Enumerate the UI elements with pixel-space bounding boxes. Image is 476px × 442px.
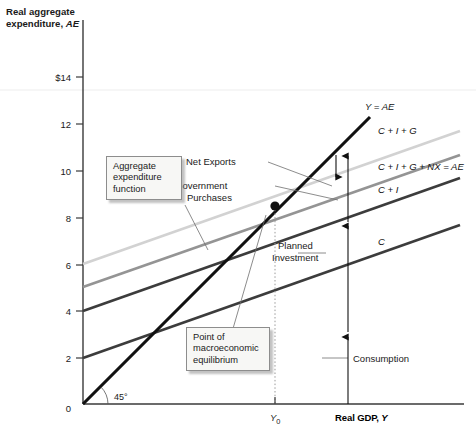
callout-aggregate-expenditure-function: Aggregate expenditure function [106,156,182,200]
curve-label-c-i-g: C + I + G [378,125,417,136]
y-tick-label-4: 4 [66,306,71,317]
annotation-consumption: Consumption [353,353,409,364]
y-tick-label-12: 12 [60,119,71,130]
y-tick-label-2: 2 [66,353,71,364]
annotation-government-purchases-1: Government [175,180,228,191]
callout-point-of-macroeconomic-equilibrium: Point of macroeconomic equilibrium [186,327,270,371]
aggregate-expenditure-figure: Real aggregate expenditure, AE $14 [0,0,476,442]
curve-label-y-equals-ae: Y = AE [365,101,395,112]
x-axis-title: Real GDP, Y [335,412,389,423]
chart-canvas: $14 12 10 8 6 4 2 0 45° Y0 Real GDP, Y Y… [0,0,476,442]
curve-label-c-i: C + I [378,184,399,195]
angle-label-45: 45° [114,392,128,402]
y-tick-label-6: 6 [66,260,71,271]
x-tick-label-y0: Y0 [270,412,280,426]
annotation-government-purchases-2: Purchases [187,192,232,203]
annotation-planned-investment-2: Investment [272,252,319,263]
y-axis-ticks [76,77,83,358]
y-tick-label-10: 10 [60,166,71,177]
y-tick-label-8: 8 [66,213,71,224]
y-tick-label-0: 0 [66,403,71,414]
annotation-net-exports: Net Exports [186,156,236,167]
equilibrium-point-dot [270,201,279,210]
curve-label-c: C [378,236,385,247]
annotation-planned-investment-1: Planned [278,240,313,251]
curve-label-c-i-g-nx: C + I + G + NX = AE [378,161,464,172]
y-tick-label-14: $14 [55,72,71,83]
angle-arc [101,387,108,404]
